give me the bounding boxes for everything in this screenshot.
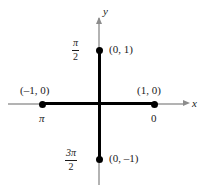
y-axis-highlight-segment [98, 49, 101, 160]
point-marker-bottom [96, 156, 103, 163]
fraction-denominator: 2 [72, 51, 79, 62]
coordinate-label-bottom: (0, –1) [109, 153, 138, 164]
angle-label-bottom-three-pi-over-two: 3π 2 [65, 148, 77, 172]
fraction-numerator: 3π [65, 148, 77, 159]
x-axis-arrowhead-icon [183, 100, 190, 106]
coordinate-label-right: (1, 0) [137, 85, 161, 96]
point-marker-top [96, 47, 103, 54]
angle-label-left-pi: π [39, 113, 45, 124]
point-marker-left [39, 101, 46, 108]
coordinate-label-left: (–1, 0) [20, 85, 49, 96]
coordinate-label-top: (0, 1) [109, 44, 133, 55]
angle-label-top-pi-over-two: π 2 [72, 38, 79, 62]
fraction-numerator: π [72, 38, 79, 49]
x-axis-label: x [192, 98, 197, 109]
fraction-denominator: 2 [65, 161, 77, 172]
point-marker-right [151, 101, 158, 108]
y-axis-arrowhead-icon [96, 17, 102, 24]
coordinate-axes-diagram: y x (0, 1) (0, –1) (–1, 0) (1, 0) π 0 π … [0, 0, 207, 196]
y-axis-label: y [103, 6, 108, 17]
angle-label-right-zero: 0 [151, 113, 157, 124]
